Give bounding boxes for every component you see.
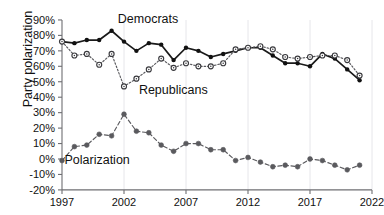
y-tick-label: -10% [29, 168, 55, 180]
y-tick-label: 60% [33, 60, 55, 72]
y-tick-label: 20% [33, 122, 55, 134]
data-point [97, 38, 101, 42]
series-republicans [60, 39, 363, 89]
data-point [134, 129, 139, 134]
data-point [97, 132, 102, 137]
data-point [159, 143, 164, 148]
chart-plot-area: 90%80%70%60%50%40%30%20%10%0%-10%-20% 19… [0, 0, 384, 215]
data-point-center [98, 64, 100, 66]
data-point [109, 133, 114, 138]
y-tick-label: -20% [29, 184, 55, 196]
data-point-center [272, 49, 274, 51]
data-point [159, 42, 163, 46]
data-point [171, 58, 175, 62]
data-point [308, 64, 312, 68]
data-point [221, 52, 225, 56]
data-point [134, 49, 138, 53]
series-annotation-democrats: Democrats [118, 12, 178, 26]
data-point-center [309, 56, 311, 58]
x-tick-label: 2022 [360, 196, 384, 208]
data-point [147, 41, 151, 45]
data-point [109, 29, 113, 33]
data-point [196, 49, 200, 53]
data-point-center [61, 41, 63, 43]
data-point [84, 143, 89, 148]
data-point [221, 147, 226, 152]
data-point [283, 61, 287, 65]
data-point-center [222, 62, 224, 64]
x-tick-label: 2012 [236, 196, 260, 208]
y-tick-label: 80% [33, 29, 55, 41]
data-point-center [235, 49, 237, 51]
x-tick-label: 2017 [298, 196, 322, 208]
x-tick-label: 1997 [50, 196, 74, 208]
data-point [233, 158, 238, 163]
data-point [283, 163, 288, 168]
y-tick-label: 90% [33, 14, 55, 26]
data-series-layer [60, 29, 363, 173]
data-point [72, 144, 77, 149]
data-point [196, 141, 201, 146]
data-point [357, 78, 361, 82]
data-point [270, 164, 275, 169]
data-point [208, 147, 213, 152]
data-point [345, 167, 350, 172]
data-point [295, 164, 300, 169]
y-tick-label: 40% [33, 91, 55, 103]
party-polarization-chart: Party polarization 90%80%70%60%50%40%30%… [0, 0, 384, 215]
data-point [122, 112, 127, 117]
x-axis-ticks: 199720022007201220172022 [50, 190, 384, 208]
y-tick-label: 0% [39, 153, 55, 165]
data-point-center [111, 53, 113, 55]
data-point-center [322, 55, 324, 57]
data-point-center [198, 66, 200, 68]
y-tick-label: 30% [33, 106, 55, 118]
data-point [271, 53, 275, 57]
data-point [320, 158, 325, 163]
data-point [122, 39, 126, 43]
data-point [246, 155, 251, 160]
y-tick-label: 50% [33, 76, 55, 88]
data-point [85, 38, 89, 42]
data-point-center [359, 75, 361, 77]
data-point-center [284, 56, 286, 58]
data-point-center [346, 59, 348, 61]
data-point [308, 157, 313, 162]
data-point-center [86, 53, 88, 55]
data-point [184, 141, 189, 146]
data-point [295, 61, 299, 65]
data-point [72, 41, 76, 45]
x-tick-label: 2002 [112, 196, 136, 208]
data-point-center [185, 62, 187, 64]
series-annotation-polarization: Polarization [64, 153, 129, 167]
data-point-center [123, 86, 125, 88]
x-tick-label: 2007 [174, 196, 198, 208]
data-point-center [334, 55, 336, 57]
data-point-center [148, 69, 150, 71]
data-point-center [247, 47, 249, 49]
data-point [171, 149, 176, 154]
data-point-center [136, 78, 138, 80]
data-point [146, 130, 151, 135]
data-point [258, 160, 263, 165]
y-axis-ticks: 90%80%70%60%50%40%30%20%10%0%-10%-20% [29, 14, 62, 196]
y-tick-label: 70% [33, 45, 55, 57]
data-point [209, 55, 213, 59]
data-point-center [160, 58, 162, 60]
data-point-center [297, 58, 299, 60]
data-point [345, 67, 349, 71]
data-point [332, 163, 337, 168]
data-point-center [210, 66, 212, 68]
data-point [184, 46, 188, 50]
data-point-center [173, 67, 175, 69]
series-annotation-republicans: Republicans [139, 83, 208, 97]
data-point-center [260, 45, 262, 47]
y-tick-label: 10% [33, 137, 55, 149]
data-point [357, 163, 362, 168]
data-point-center [74, 55, 76, 57]
series-democrats [60, 29, 362, 83]
